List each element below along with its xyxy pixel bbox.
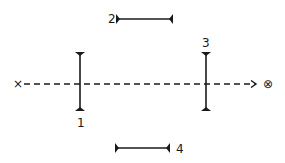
end-cap-icon	[201, 107, 211, 111]
optical-element-1: 1	[75, 52, 85, 130]
end-cap-icon	[166, 143, 170, 153]
target-point-icon: ⊗	[263, 77, 273, 91]
end-cap-icon	[75, 107, 85, 111]
end-cap-icon	[116, 14, 120, 24]
element-label: 3	[202, 36, 210, 50]
optical-diagram: × ⊗ 1234	[0, 0, 285, 163]
end-cap-icon	[201, 52, 211, 56]
optical-element-2: 2	[108, 12, 173, 26]
element-label: 4	[176, 142, 184, 156]
optical-element-4: 4	[115, 142, 184, 156]
source-point-icon: ×	[13, 77, 23, 91]
end-cap-icon	[169, 14, 173, 24]
optical-element-3: 3	[201, 36, 211, 111]
end-cap-icon	[75, 52, 85, 56]
element-label: 1	[77, 116, 85, 130]
end-cap-icon	[115, 143, 119, 153]
element-label: 2	[108, 12, 116, 26]
